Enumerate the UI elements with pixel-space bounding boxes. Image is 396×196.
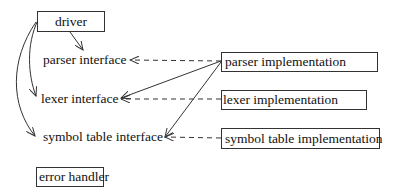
node-driver: driver (37, 11, 105, 32)
node-lexer-interface: lexer interface (41, 90, 119, 107)
node-label: symbol table interface (43, 129, 163, 144)
node-error-handler: error handler (36, 167, 104, 187)
node-label: lexer interface (41, 91, 119, 106)
node-label: parser interface (43, 52, 127, 67)
node-label: lexer implementation (223, 92, 338, 107)
node-lexer-implementation: lexer implementation (221, 90, 367, 110)
node-label: error handler (39, 169, 109, 184)
edge-driver-parser-interface (70, 32, 83, 50)
node-label: symbol table implementation (225, 131, 382, 146)
node-parser-implementation: parser implementation (221, 52, 378, 72)
edge-parser-impl-lexer-interface (121, 61, 221, 98)
edge-parser-impl-parser-interface (130, 60, 221, 61)
edge-symbol-table-impl-symbol-table-interface (165, 137, 221, 138)
node-symbol-table-interface: symbol table interface (43, 128, 163, 145)
node-label: driver (55, 14, 87, 29)
node-symbol-table-implementation: symbol table implementation (221, 128, 380, 149)
node-label: parser implementation (225, 54, 346, 69)
edge-driver-symbol-table-interface (16, 22, 36, 136)
node-parser-interface: parser interface (43, 51, 127, 68)
